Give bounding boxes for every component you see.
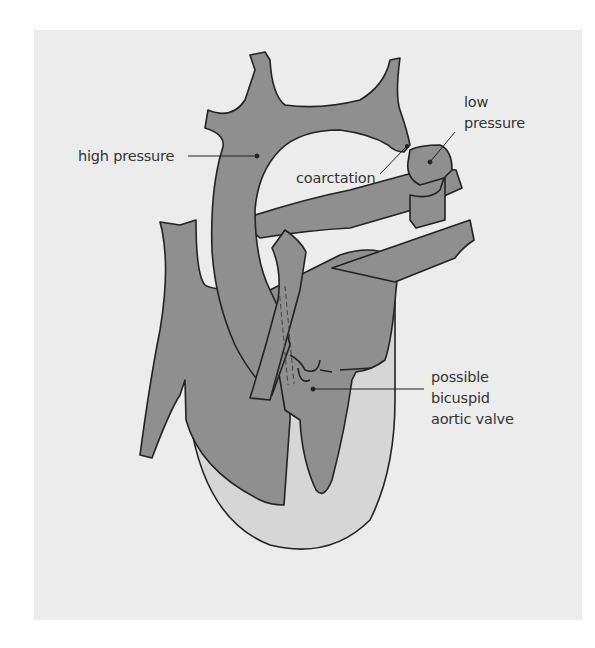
heart-diagram: [0, 0, 595, 648]
label-valve-line1: possible: [431, 367, 489, 387]
label-coarctation: coarctation: [296, 168, 376, 188]
label-valve-line2: bicuspid: [431, 388, 490, 408]
label-low-pressure-line2: pressure: [464, 113, 525, 133]
label-low-pressure-line1: low: [464, 92, 488, 112]
label-high-pressure: high pressure: [78, 146, 174, 166]
label-valve-line3: aortic valve: [431, 409, 514, 429]
